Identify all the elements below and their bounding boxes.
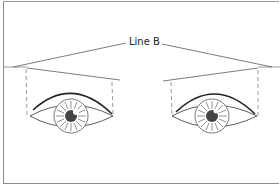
line-b-right bbox=[162, 44, 272, 67]
left-brow-guide bbox=[27, 68, 120, 80]
brow-guides bbox=[27, 68, 258, 81]
left-eye bbox=[30, 93, 113, 133]
left-inner-dash bbox=[112, 82, 113, 116]
right-inner-dash bbox=[171, 82, 172, 116]
right-eye bbox=[172, 94, 257, 133]
left-highlight bbox=[73, 109, 79, 115]
line-b-left bbox=[13, 43, 126, 67]
right-highlight bbox=[214, 109, 219, 114]
eye-diagram bbox=[0, 0, 280, 187]
line-b-label: Line B bbox=[128, 36, 161, 48]
right-brow-guide bbox=[163, 68, 258, 81]
left-outer-dash bbox=[26, 69, 27, 116]
